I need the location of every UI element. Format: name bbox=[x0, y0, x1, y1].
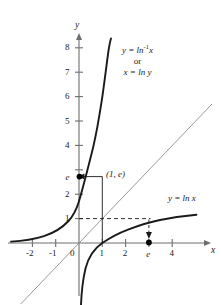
ln-inverse-graph-figure: -2 -1 0 1 2 e 4 1 2 e 4 5 6 7 8 x y y = … bbox=[0, 0, 221, 305]
y-tick-label-2: 2 bbox=[65, 190, 70, 199]
inverse-curve-label-line3: x = ln y bbox=[122, 68, 153, 77]
x-tick-label-0: 0 bbox=[70, 249, 75, 258]
y-tick-label-e: e bbox=[66, 173, 70, 182]
y-tick-label-7: 7 bbox=[65, 68, 70, 77]
x-tick-label-2: 2 bbox=[123, 249, 128, 258]
x-axis-label: x bbox=[211, 246, 215, 256]
x-tick-label--2: -2 bbox=[26, 249, 34, 258]
inverse-label-prefix: y = ln bbox=[122, 45, 144, 55]
x-axis-e-dot bbox=[146, 240, 152, 246]
y-tick-label-4: 4 bbox=[65, 141, 70, 150]
x-tick-label-1: 1 bbox=[100, 249, 105, 258]
inverse-curve-label-line2: or bbox=[122, 57, 153, 66]
plot-canvas bbox=[0, 0, 221, 305]
y-tick-label-8: 8 bbox=[65, 43, 70, 52]
y-tick-label-5: 5 bbox=[65, 117, 70, 126]
x-tick-label-e: e bbox=[146, 250, 150, 259]
exponential-curve bbox=[11, 39, 111, 242]
inverse-curve-label-line1: y = ln-1x bbox=[122, 44, 153, 55]
y-axis-label: y bbox=[75, 21, 79, 31]
y-axis-e-dot bbox=[77, 174, 83, 180]
log-curve-label: y = ln x bbox=[168, 194, 196, 203]
inverse-label-suffix: x bbox=[149, 45, 153, 55]
dashed-arrow-head-to-x-e bbox=[146, 232, 152, 239]
y-axis-arrowhead bbox=[76, 33, 82, 40]
identity-line-y-equals-x bbox=[21, 104, 212, 304]
y-tick-label-6: 6 bbox=[65, 92, 70, 101]
logarithm-curve bbox=[81, 215, 197, 305]
y-tick-label-1: 1 bbox=[65, 214, 70, 223]
inverse-curve-label: y = ln-1x or x = ln y bbox=[122, 44, 153, 77]
axes-group bbox=[8, 33, 211, 296]
x-tick-label-4: 4 bbox=[169, 249, 174, 258]
x-axis-arrowhead bbox=[204, 240, 211, 246]
x-tick-label--1: -1 bbox=[49, 249, 57, 258]
point-label-1-e: (1, e) bbox=[106, 170, 125, 179]
